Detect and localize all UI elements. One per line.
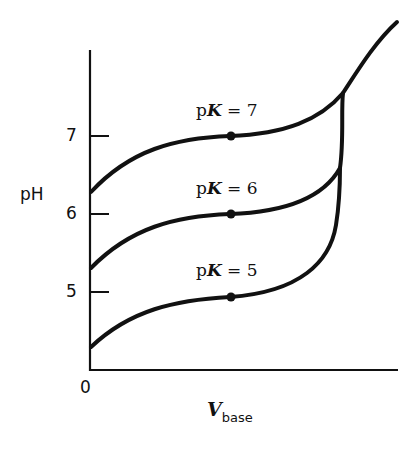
half-equivalence-dot-pk-7 [227,132,236,141]
y-tick-label-7: 7 [66,127,77,144]
y-tick-label-6: 6 [66,205,77,222]
half-equivalence-dot-pk-5 [227,293,236,302]
y-axis-label: pH [20,186,44,203]
label-pk-6: pK = 6 [196,180,258,197]
half-equivalence-dot-pk-6 [227,210,236,219]
titration-chart [0,0,414,451]
x-axis-label: Vbase [207,400,253,419]
y-tick-label-5: 5 [66,283,77,300]
label-pk-7: pK = 7 [196,102,258,119]
x-origin-label: 0 [80,379,91,396]
label-pk-5: pK = 5 [196,262,258,279]
